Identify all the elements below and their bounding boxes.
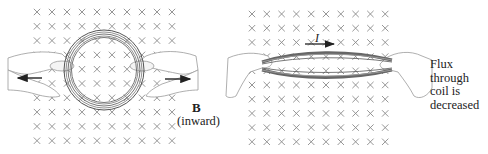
field-x-mark [79,52,85,58]
field-x-mark [249,110,255,116]
field-x-mark [323,139,329,145]
field-x-mark [109,23,115,29]
field-x-mark [79,23,85,29]
field-x-mark [338,139,344,145]
field-x-mark [352,96,358,102]
field-x-mark [293,68,299,74]
field-x-mark [139,23,145,29]
field-x-mark [338,82,344,88]
field-x-mark [382,96,388,102]
field-x-mark [154,109,160,115]
field-x-mark [323,68,329,74]
field-x-mark [94,66,100,72]
field-x-mark [94,23,100,29]
field-x-mark [34,123,40,129]
field-x-mark [169,95,175,101]
field-x-mark [264,11,270,17]
field-x-mark [293,25,299,31]
field-x-mark [308,11,314,17]
field-x-mark [308,82,314,88]
field-x-mark [154,123,160,129]
field-x-mark [338,39,344,45]
field-x-mark [382,25,388,31]
field-x-mark [139,95,145,101]
field-x-mark [293,82,299,88]
field-x-mark [169,109,175,115]
field-x-mark [382,139,388,145]
field-x-mark [278,25,284,31]
field-x-mark [34,23,40,29]
field-x-mark [293,110,299,116]
flattened-coil [262,53,392,78]
field-x-mark [323,25,329,31]
field-x-mark [338,11,344,17]
field-x-mark [323,96,329,102]
field-x-mark [264,82,270,88]
field-x-mark [308,96,314,102]
circular-coil [64,30,144,110]
flux-caption-line: coil is [430,85,479,99]
field-x-mark [293,39,299,45]
field-x-mark [94,95,100,101]
faraday-coil-diagram: B (inward) I Flux through coil is decrea… [0,0,488,154]
field-x-mark [323,82,329,88]
field-x-mark [278,96,284,102]
field-x-mark [278,11,284,17]
field-x-mark [278,39,284,45]
field-x-mark [338,68,344,74]
field-x-mark [249,82,255,88]
field-x-mark [94,138,100,144]
field-x-mark [109,123,115,129]
field-x-mark [154,9,160,15]
field-x-mark [367,11,373,17]
field-x-mark [278,110,284,116]
field-x-mark [49,123,55,129]
field-x-mark [124,9,130,15]
field-x-mark [139,37,145,43]
field-x-mark [264,25,270,31]
field-x-mark [64,123,70,129]
field-x-mark [124,138,130,144]
field-x-mark [49,9,55,15]
field-x-mark [64,23,70,29]
field-x-mark [169,23,175,29]
field-x-mark [249,25,255,31]
field-x-mark [109,95,115,101]
field-x-mark [94,52,100,58]
field-x-mark [34,138,40,144]
field-x-mark [323,11,329,17]
field-x-mark [278,82,284,88]
field-x-mark [249,139,255,145]
field-x-mark [293,124,299,130]
field-x-mark [293,96,299,102]
field-x-mark [293,11,299,17]
field-x-mark [124,23,130,29]
field-x-mark [323,124,329,130]
magnetic-field-x-marks-left [34,9,175,144]
field-x-mark [154,37,160,43]
current-label: I [315,32,319,44]
field-x-mark [139,109,145,115]
field-x-mark [79,123,85,129]
field-x-mark [382,124,388,130]
field-x-mark [338,96,344,102]
field-x-mark [278,124,284,130]
field-x-mark [154,23,160,29]
field-x-mark [382,11,388,17]
field-x-mark [352,25,358,31]
field-x-mark [264,124,270,130]
diagram-canvas [0,0,488,154]
field-x-mark [109,9,115,15]
flux-caption-line: decreased [430,99,479,113]
field-x-mark [352,124,358,130]
field-x-mark [64,9,70,15]
field-x-mark [352,68,358,74]
field-x-mark [169,138,175,144]
field-x-mark [124,52,130,58]
field-x-mark [49,138,55,144]
field-x-mark [169,123,175,129]
field-x-mark [382,39,388,45]
field-x-mark [124,66,130,72]
field-x-mark [264,39,270,45]
field-x-mark [264,96,270,102]
